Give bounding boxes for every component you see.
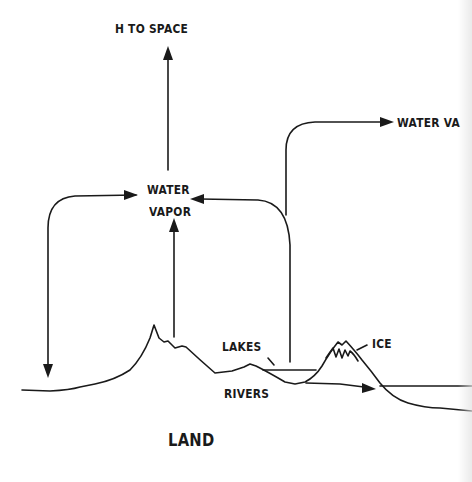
label-rivers: RIVERS — [224, 387, 269, 400]
label-water-vapor-center-line2: VAPOR — [149, 205, 191, 218]
label-h-to-space: H TO SPACE — [115, 22, 188, 35]
label-land: LAND — [168, 431, 214, 449]
label-water-vapor-right: WATER VA — [397, 116, 460, 129]
page-edge-shadow — [458, 0, 472, 482]
arrow-to-space — [163, 46, 173, 170]
arrow-land-to-vapor — [169, 218, 179, 337]
lakes-leader-line — [268, 358, 274, 365]
label-ice: ICE — [372, 337, 392, 350]
label-water-vapor-center-line1: WATER — [147, 183, 190, 196]
ice-leader-line — [357, 345, 367, 350]
arrow-to-water-vapor-right — [286, 117, 394, 215]
arrow-lakes-to-vapor — [190, 194, 290, 362]
hydrologic-cycle-diagram — [0, 0, 472, 482]
river-arrow — [306, 383, 376, 393]
arrow-vapor-to-land — [43, 190, 138, 378]
label-lakes: LAKES — [222, 340, 262, 353]
